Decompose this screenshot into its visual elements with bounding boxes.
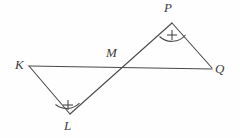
- geometry-canvas: [0, 0, 240, 138]
- vertex-label-M: M: [106, 46, 117, 59]
- segment-KL: [29, 66, 70, 114]
- vertex-label-K: K: [15, 58, 24, 71]
- geometry-figure: K L M P Q: [0, 0, 240, 138]
- vertex-label-Q: Q: [215, 62, 224, 75]
- angle-mark-P: [160, 30, 186, 41]
- vertex-label-P: P: [164, 1, 172, 14]
- segment-PQ: [172, 23, 212, 68]
- vertex-label-L: L: [64, 119, 71, 132]
